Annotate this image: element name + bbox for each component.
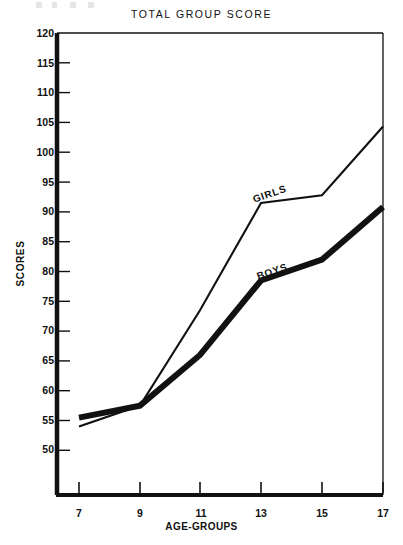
series-line-girls [79,127,383,427]
series-line-boys [79,207,383,418]
x-tick-marks [79,482,383,493]
plot-area [0,0,403,545]
y-tick-marks [59,63,70,451]
chart-figure: TOTAL GROUP SCORE SCORES AGE-GROUPS 120 … [0,0,403,545]
